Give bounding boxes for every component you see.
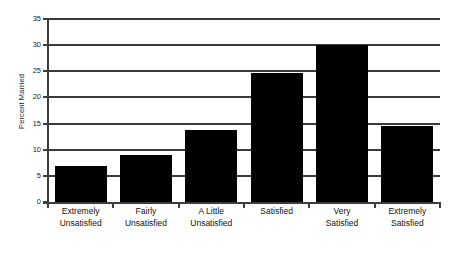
bar-chart: Percent Married 05101520253035 Extremely… [0,0,465,257]
y-axis-title: Percent Married [14,0,28,202]
bar [381,126,433,202]
y-axis-tick-label: 20 [33,94,41,102]
x-axis-category-labels: ExtremelyUnsatisfiedFairlyUnsatisfiedA L… [48,206,440,250]
y-axis-tick-label: 25 [33,68,41,76]
x-axis-category-label: FairlyUnsatisfied [113,206,178,229]
category-label-line-1: Very [309,206,374,218]
y-axis-tick-label: 0 [37,198,41,206]
x-axis-category-label: ExtremelySatisfied [375,206,440,229]
x-axis-baseline [43,202,441,204]
plot-area: 05101520253035 [48,19,440,202]
y-axis-tick-label: 30 [33,41,41,49]
bar [316,45,368,202]
category-label-line-1: Fairly [113,206,178,218]
bar [251,73,303,202]
x-axis-category-label: VerySatisfied [309,206,374,229]
x-axis-category-label: A LittleUnsatisfied [179,206,244,229]
y-axis-tick-label: 15 [33,120,41,128]
bar [55,166,107,202]
y-axis-tick-label: 5 [37,172,41,180]
category-label-line-1: Satisfied [244,206,309,218]
category-label-line-1: Extremely [375,206,440,218]
y-axis-tick-label: 10 [33,146,41,154]
category-label-line-2: Satisfied [309,218,374,230]
category-label-line-2: Unsatisfied [48,218,113,230]
category-label-line-2: Unsatisfied [179,218,244,230]
y-axis-title-text: Percent Married [17,74,26,129]
category-label-line-2: Unsatisfied [113,218,178,230]
y-axis-tick-label: 35 [33,15,41,23]
category-label-line-1: Extremely [48,206,113,218]
x-axis-category-label: ExtremelyUnsatisfied [48,206,113,229]
category-label-line-1: A Little [179,206,244,218]
bar [185,130,237,202]
bar [120,155,172,202]
category-label-line-2: Satisfied [375,218,440,230]
x-axis-category-label: Satisfied [244,206,309,218]
bars [48,19,440,202]
